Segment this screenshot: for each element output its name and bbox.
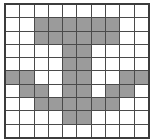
pixel-cell-empty[interactable] [91,124,105,131]
pixel-cell-empty[interactable] [48,4,62,18]
pixel-cell-empty[interactable] [20,44,34,57]
pixel-cell-empty[interactable] [20,4,34,18]
pixel-grid-table[interactable] [4,3,141,131]
pixel-cell-empty[interactable] [120,111,134,124]
pixel-cell-filled[interactable] [34,18,48,31]
pixel-cell-empty[interactable] [91,71,105,84]
pixel-cell-empty[interactable] [106,58,120,71]
pixel-cell-empty[interactable] [120,4,134,18]
pixel-cell-empty[interactable] [120,44,134,57]
pixel-cell-empty[interactable] [5,58,20,71]
pixel-cell-empty[interactable] [91,4,105,18]
pixel-cell-filled[interactable] [106,18,120,31]
pixel-cell-empty[interactable] [20,58,34,71]
pixel-cell-empty[interactable] [91,84,105,97]
pixel-cell-filled[interactable] [120,71,134,84]
pixel-cell-empty[interactable] [91,58,105,71]
pixel-cell-filled[interactable] [48,31,62,44]
pixel-cell-empty[interactable] [134,31,141,44]
pixel-cell-filled[interactable] [77,58,91,71]
pixel-cell-filled[interactable] [77,98,91,111]
pixel-cell-filled[interactable] [134,71,141,84]
pixel-cell-empty[interactable] [5,98,20,111]
pixel-cell-empty[interactable] [5,111,20,124]
pixel-cell-empty[interactable] [48,71,62,84]
pixel-cell-filled[interactable] [91,31,105,44]
pixel-cell-empty[interactable] [134,111,141,124]
pixel-cell-filled[interactable] [63,18,77,31]
pixel-cell-filled[interactable] [63,31,77,44]
pixel-cell-empty[interactable] [5,44,20,57]
pixel-cell-empty[interactable] [134,44,141,57]
pixel-cell-empty[interactable] [134,98,141,111]
pixel-cell-empty[interactable] [34,44,48,57]
pixel-cell-empty[interactable] [48,58,62,71]
pixel-cell-filled[interactable] [106,98,120,111]
pixel-cell-empty[interactable] [120,18,134,31]
pixel-cell-filled[interactable] [63,111,77,124]
pixel-cell-empty[interactable] [34,111,48,124]
pixel-cell-filled[interactable] [77,18,91,31]
pixel-cell-empty[interactable] [134,124,141,131]
pixel-cell-empty[interactable] [48,84,62,97]
pixel-cell-empty[interactable] [106,44,120,57]
pixel-cell-empty[interactable] [91,44,105,57]
pixel-cell-empty[interactable] [106,4,120,18]
pixel-cell-empty[interactable] [106,124,120,131]
pixel-cell-filled[interactable] [63,58,77,71]
pixel-cell-filled[interactable] [48,18,62,31]
pixel-cell-empty[interactable] [106,71,120,84]
pixel-cell-empty[interactable] [34,58,48,71]
pixel-cell-filled[interactable] [63,84,77,97]
pixel-cell-empty[interactable] [34,124,48,131]
pixel-cell-empty[interactable] [106,111,120,124]
pixel-cell-filled[interactable] [34,84,48,97]
pixel-cell-empty[interactable] [134,58,141,71]
pixel-cell-filled[interactable] [20,71,34,84]
pixel-cell-empty[interactable] [5,31,20,44]
pixel-cell-empty[interactable] [5,124,20,131]
pixel-cell-filled[interactable] [34,31,48,44]
pixel-cell-filled[interactable] [5,71,20,84]
pixel-cell-empty[interactable] [134,4,141,18]
pixel-cell-empty[interactable] [20,18,34,31]
pixel-cell-empty[interactable] [5,84,20,97]
pixel-cell-filled[interactable] [63,44,77,57]
pixel-cell-filled[interactable] [77,111,91,124]
pixel-cell-filled[interactable] [77,71,91,84]
pixel-cell-empty[interactable] [120,124,134,131]
pixel-cell-empty[interactable] [48,124,62,131]
pixel-cell-filled[interactable] [63,71,77,84]
pixel-cell-filled[interactable] [34,98,48,111]
pixel-cell-filled[interactable] [77,44,91,57]
pixel-cell-filled[interactable] [91,18,105,31]
pixel-cell-empty[interactable] [48,111,62,124]
pixel-cell-filled[interactable] [48,98,62,111]
pixel-cell-empty[interactable] [20,111,34,124]
pixel-cell-empty[interactable] [120,98,134,111]
pixel-cell-empty[interactable] [120,31,134,44]
pixel-cell-empty[interactable] [20,31,34,44]
pixel-cell-empty[interactable] [120,58,134,71]
pixel-cell-filled[interactable] [91,98,105,111]
pixel-cell-filled[interactable] [120,84,134,97]
pixel-cell-empty[interactable] [34,4,48,18]
pixel-cell-empty[interactable] [5,18,20,31]
pixel-cell-filled[interactable] [63,98,77,111]
pixel-cell-filled[interactable] [20,84,34,97]
pixel-cell-empty[interactable] [34,71,48,84]
pixel-cell-empty[interactable] [91,111,105,124]
pixel-cell-empty[interactable] [134,84,141,97]
pixel-cell-filled[interactable] [106,84,120,97]
pixel-cell-empty[interactable] [63,124,77,131]
pixel-cell-empty[interactable] [77,124,91,131]
pixel-cell-empty[interactable] [134,18,141,31]
pixel-cell-empty[interactable] [77,4,91,18]
pixel-cell-filled[interactable] [77,84,91,97]
pixel-cell-empty[interactable] [5,4,20,18]
pixel-cell-empty[interactable] [20,98,34,111]
pixel-cell-filled[interactable] [106,31,120,44]
pixel-cell-empty[interactable] [20,124,34,131]
pixel-cell-empty[interactable] [48,44,62,57]
pixel-cell-empty[interactable] [63,4,77,18]
